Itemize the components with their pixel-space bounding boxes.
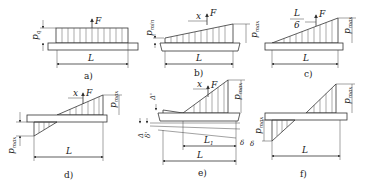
force-label: F	[210, 80, 218, 90]
panel-a: F pq L a)	[30, 16, 138, 81]
delta-end-label: δ	[240, 139, 244, 147]
caption-b: b)	[194, 68, 203, 78]
panel-f: pmax pmax δ L f)	[250, 84, 355, 179]
beam	[48, 43, 138, 50]
offset-label: x	[197, 79, 202, 89]
pressure-triangle-top	[306, 84, 336, 113]
offset-denominator: 6	[294, 20, 300, 30]
pressure-max-label: pmax	[232, 82, 243, 100]
pressure-max-label: pmax	[249, 20, 260, 38]
pressure-distribution-diagram: F pq L a) F x pmin pmax	[0, 0, 365, 186]
pressure-trapezoid	[165, 24, 233, 43]
caption-c: c)	[304, 69, 313, 79]
length-partial-label: L1	[203, 135, 213, 146]
pressure-triangle-bottom	[272, 120, 295, 141]
panel-e: F x pmax Δ' Δ δ' δ L1 L e)	[137, 79, 245, 178]
length-label: L	[196, 150, 203, 160]
caption-f: f)	[300, 169, 307, 179]
pressure-min-label: pmin	[144, 19, 155, 36]
pressure-max-label: pmax	[342, 16, 353, 34]
beam	[160, 43, 240, 51]
pressure-max-top-label: pmax	[342, 86, 353, 104]
panel-c: F L 6 pmax L c)	[265, 8, 356, 79]
beam	[265, 113, 347, 120]
caption-a: a)	[84, 71, 93, 81]
caption-d: d)	[64, 170, 73, 180]
pressure-max-bottom-label: pmax	[6, 136, 17, 154]
force-label: F	[94, 16, 102, 26]
delta-prime-label: Δ'	[149, 93, 157, 101]
delta-label: δ	[250, 140, 254, 148]
offset-numerator: L	[293, 8, 300, 18]
panel-b: F x pmin pmax L b)	[144, 8, 260, 78]
beam	[27, 115, 107, 122]
pressure-triangle-bottom	[34, 122, 57, 136]
length-label: L	[301, 145, 308, 155]
length-label: L	[87, 53, 94, 63]
beam	[158, 113, 240, 121]
pressure-max-bottom-label: pmax	[253, 116, 264, 134]
force-label: F	[85, 88, 93, 98]
offset-label: x	[196, 11, 201, 21]
panel-d: F x pmax pmax L d)	[6, 88, 122, 180]
length-label: L	[195, 53, 202, 63]
delta-small-prime-label: δ'	[144, 132, 152, 138]
pressure-triangle	[183, 80, 228, 113]
force-label: F	[209, 8, 217, 18]
pressure-max-top-label: pmax	[108, 90, 119, 108]
length-label: L	[302, 53, 309, 63]
length-label: L	[65, 146, 72, 156]
force-label: F	[318, 9, 326, 19]
offset-label: x	[73, 88, 78, 98]
pressure-label: pq	[30, 30, 42, 40]
caption-e: e)	[198, 168, 207, 178]
beam	[265, 43, 343, 50]
